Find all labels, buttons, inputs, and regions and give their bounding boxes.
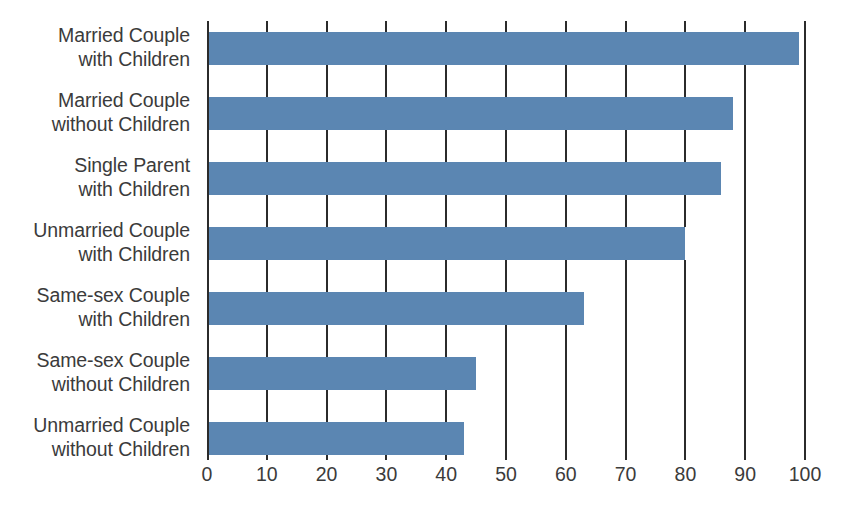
gridline-segment <box>565 325 567 357</box>
x-tick-label: 0 <box>202 462 213 486</box>
gridline-segment <box>385 325 387 357</box>
gridline-segment <box>505 455 507 460</box>
gridline-segment <box>625 422 627 455</box>
gridline-segment <box>266 65 268 97</box>
bar <box>207 162 721 195</box>
gridline-segment <box>385 195 387 227</box>
gridline-segment <box>804 357 806 390</box>
gridline-segment <box>684 130 686 162</box>
gridline-segment <box>266 325 268 357</box>
gridline-segment <box>804 227 806 260</box>
x-tick-label: 60 <box>555 462 577 486</box>
bar-row <box>207 162 805 195</box>
gridline-segment <box>385 21 387 32</box>
gridline-segment <box>565 260 567 292</box>
gridline-segment <box>565 390 567 422</box>
gridline-segment <box>625 357 627 390</box>
category-label: Unmarried Couple without Children <box>0 413 190 461</box>
x-tick-label: 10 <box>256 462 278 486</box>
gridline-segment <box>744 97 746 130</box>
gridline-segment <box>804 32 806 65</box>
gridline-segment <box>744 195 746 227</box>
bar <box>207 97 733 130</box>
bar <box>207 357 476 390</box>
gridline-segment <box>804 292 806 325</box>
gridline-segment <box>684 325 686 357</box>
gridline-segment <box>565 195 567 227</box>
x-tick-label: 70 <box>615 462 637 486</box>
gridline-segment <box>684 390 686 422</box>
category-axis-labels: Married Couple with ChildrenMarried Coup… <box>0 21 198 460</box>
gridline-segment <box>625 390 627 422</box>
gridline-segment <box>445 195 447 227</box>
x-tick-label: 30 <box>376 462 398 486</box>
gridline-segment <box>804 260 806 292</box>
gridline-segment <box>804 65 806 97</box>
gridline-segment <box>744 422 746 455</box>
gridline-segment <box>326 325 328 357</box>
gridline-segment <box>565 65 567 97</box>
gridline-segment <box>326 195 328 227</box>
gridline-segment <box>565 130 567 162</box>
gridline-segment <box>744 390 746 422</box>
gridline-segment <box>385 455 387 460</box>
gridline-segment <box>744 455 746 460</box>
gridline-segment <box>326 21 328 32</box>
gridline-segment <box>266 260 268 292</box>
x-tick-label: 50 <box>495 462 517 486</box>
gridline-segment <box>625 260 627 292</box>
gridline-segment <box>445 260 447 292</box>
gridline-segment <box>565 455 567 460</box>
gridline-segment <box>326 390 328 422</box>
category-label: Same-sex Couple without Children <box>0 348 190 396</box>
gridline-segment <box>625 130 627 162</box>
gridline-segment <box>505 422 507 455</box>
plot-area <box>207 21 805 460</box>
gridline-segment <box>684 455 686 460</box>
gridline-segment <box>266 390 268 422</box>
gridline-segment <box>505 21 507 32</box>
gridline-segment <box>744 292 746 325</box>
gridline-segment <box>804 162 806 195</box>
bar <box>207 227 685 260</box>
gridline-segment <box>385 65 387 97</box>
gridline-segment <box>445 130 447 162</box>
gridline-segment <box>804 130 806 162</box>
gridline-segment <box>445 65 447 97</box>
x-tick-label: 40 <box>435 462 457 486</box>
gridline-segment <box>684 292 686 325</box>
bar-row <box>207 32 805 65</box>
value-axis-line <box>207 21 209 460</box>
gridline-segment <box>445 21 447 32</box>
category-label: Same-sex Couple with Children <box>0 283 190 331</box>
gridline-segment <box>326 260 328 292</box>
gridline-segment <box>505 65 507 97</box>
gridline-segment <box>565 357 567 390</box>
value-axis-tick-labels: 0102030405060708090100 <box>207 462 805 494</box>
gridline-segment <box>625 325 627 357</box>
gridline-segment <box>445 455 447 460</box>
gridline-segment <box>804 455 806 460</box>
gridline-segment <box>744 21 746 32</box>
gridline-segment <box>505 260 507 292</box>
gridline-segment <box>505 357 507 390</box>
gridline-segment <box>326 130 328 162</box>
gridline-segment <box>804 195 806 227</box>
x-tick-label: 90 <box>734 462 756 486</box>
gridline-segment <box>326 455 328 460</box>
gridline-segment <box>445 325 447 357</box>
gridline-segment <box>266 455 268 460</box>
gridline-segment <box>625 65 627 97</box>
gridline-segment <box>684 195 686 227</box>
gridline-segment <box>266 130 268 162</box>
gridline-segment <box>385 260 387 292</box>
gridline-segment <box>505 325 507 357</box>
gridline-segment <box>625 21 627 32</box>
gridline-segment <box>684 21 686 32</box>
gridline-segment <box>804 21 806 32</box>
gridline-segment <box>744 130 746 162</box>
x-tick-label: 100 <box>789 462 822 486</box>
gridline-segment <box>625 292 627 325</box>
category-label: Married Couple with Children <box>0 23 190 71</box>
gridline-segment <box>266 21 268 32</box>
